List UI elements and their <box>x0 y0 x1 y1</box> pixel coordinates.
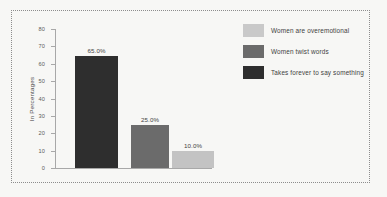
legend-item[interactable]: Women twist words <box>243 42 378 60</box>
legend-item[interactable]: Women are overemotional <box>243 21 378 39</box>
x-axis-line <box>55 168 212 169</box>
y-axis-tick-label: 20 <box>39 130 45 136</box>
chart-legend: Women are overemotionalWomen twist words… <box>243 21 378 84</box>
chart-figure: In Percentages 01020304050607080 65.0%25… <box>0 0 387 197</box>
bar-series: 65.0%25.0%10.0% <box>55 30 212 168</box>
bar[interactable]: 65.0% <box>75 56 118 168</box>
legend-item-label: Takes forever to say something <box>271 69 364 76</box>
bar-value-label: 65.0% <box>87 47 105 54</box>
y-axis-tick-label: 50 <box>39 78 45 84</box>
y-axis-tick-label: 80 <box>39 26 45 32</box>
legend-item-label: Women twist words <box>271 48 329 55</box>
y-axis-tick-label: 60 <box>39 61 45 67</box>
legend-item[interactable]: Takes forever to say something <box>243 63 378 81</box>
bar-value-label: 10.0% <box>184 142 202 149</box>
legend-swatch <box>243 24 264 37</box>
bar[interactable]: 25.0% <box>131 125 169 168</box>
legend-swatch <box>243 45 264 58</box>
y-axis-tick-label: 30 <box>39 113 45 119</box>
bar-value-label: 25.0% <box>141 116 159 123</box>
y-axis-label: In Percentages <box>28 77 35 121</box>
legend-item-label: Women are overemotional <box>271 27 349 34</box>
y-axis-tick-label: 10 <box>39 148 45 154</box>
bar[interactable]: 10.0% <box>172 151 214 168</box>
legend-swatch <box>243 66 264 79</box>
y-axis-tick-label: 0 <box>42 165 45 171</box>
y-axis-tick-label: 40 <box>39 96 45 102</box>
y-axis-tick-label: 70 <box>39 43 45 49</box>
